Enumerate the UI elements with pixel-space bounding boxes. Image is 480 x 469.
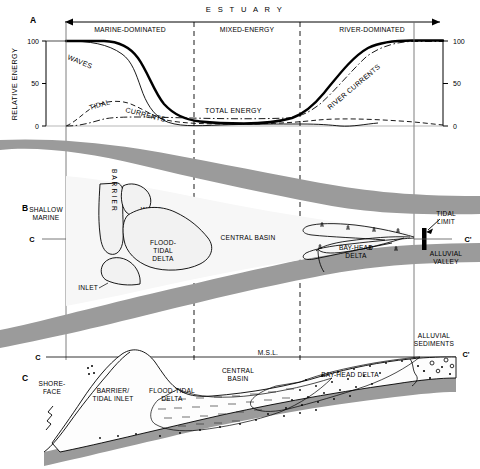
panel-a-right-axis: 100 50 0 <box>443 38 465 130</box>
estuary-extent-arrow <box>65 19 440 26</box>
shoreface-ravinement-zigzag <box>46 406 53 430</box>
curve-label-waves: WAVES <box>67 53 94 69</box>
feature-label-central-basin-c-2: BASIN <box>228 375 249 382</box>
feature-label-shallow-marine-2: MARINE <box>33 214 60 221</box>
feature-label-alluvial-sed-1: ALLUVIAL <box>418 332 451 339</box>
curve-label-river-currents: RIVER CURRENTS <box>326 63 381 111</box>
feature-label-ftd-c-2: DELTA <box>161 395 183 402</box>
feature-label-inlet: INLET <box>78 284 98 291</box>
feature-label-shallow-marine-1: SHALLOW <box>29 206 63 213</box>
section-label-c-right: C' <box>462 350 469 359</box>
feature-label-ftd-3: DELTA <box>152 255 174 262</box>
estuary-facies-model-figure: A E S T U A R Y MARINE-DOMINATED MIXED-E… <box>0 0 480 469</box>
zone-label-marine-dominated: MARINE-DOMINATED <box>94 26 165 33</box>
panel-a-ytick-right-0: 0 <box>453 123 457 130</box>
panel-c: C C C' M.S.L. <box>22 332 470 466</box>
feature-label-bhd-2: DELTA <box>345 252 367 259</box>
curve-label-tidal: TIDAL <box>88 98 110 111</box>
panel-a: A E S T U A R Y MARINE-DOMINATED MIXED-E… <box>10 5 465 130</box>
feature-label-tidal-limit-1: TIDAL <box>436 210 456 217</box>
feature-label-alluvial-valley-2: VALLEY <box>433 258 459 265</box>
feature-label-shoreface-1: SHORE- <box>39 380 66 387</box>
feature-label-ftd-c-1: FLOOD-TIDAL <box>149 387 195 394</box>
feature-label-barrier-inlet-1: BARRIER/ <box>97 387 130 394</box>
section-label-c-left: C <box>35 353 41 362</box>
feature-label-alluvial-valley-1: ALLUVIAL <box>430 250 463 257</box>
feature-label-central-basin-c-1: CENTRAL <box>222 367 254 374</box>
feature-label-bhd-1: BAY-HEAD <box>339 244 373 251</box>
feature-label-bhd-c: BAY-HEAD DELTA <box>321 371 379 378</box>
section-label-b-right: C' <box>464 235 471 244</box>
panel-a-ytick-100: 100 <box>27 38 39 45</box>
panel-a-ytick-right-100: 100 <box>453 38 465 45</box>
curve-label-total-energy: TOTAL ENERGY <box>205 107 262 114</box>
feature-label-central-basin: CENTRAL BASIN <box>221 234 276 241</box>
panel-a-label: A <box>30 15 36 25</box>
panel-a-ytick-0: 0 <box>35 123 39 130</box>
panel-b: B B A R R I E R WASH- OVERS FLOOD- TIDAL… <box>0 139 480 348</box>
section-label-b-left: C <box>29 235 35 244</box>
panel-b-label: B <box>22 203 28 213</box>
zone-label-river-dominated: RIVER-DOMINATED <box>339 26 405 33</box>
panel-c-label: C <box>22 373 28 383</box>
feature-label-barrier: B A R R I E R <box>111 169 118 211</box>
panel-a-axis-title: RELATIVE ENERGY <box>10 48 19 121</box>
panel-a-ytick-right-50: 50 <box>453 80 461 87</box>
panel-a-left-axis: 100 50 0 RELATIVE ENERGY <box>10 38 46 130</box>
tidal-limit-arrow <box>426 219 440 234</box>
zone-label-mixed-energy: MIXED-ENERGY <box>220 26 275 33</box>
msl-label: M.S.L. <box>258 349 278 356</box>
panel-a-ytick-50: 50 <box>31 80 39 87</box>
feature-label-ftd-1: FLOOD- <box>150 239 176 246</box>
feature-label-barrier-inlet-2: TIDAL INLET <box>92 395 133 402</box>
feature-label-ftd-2: TIDAL <box>153 247 173 254</box>
estuary-header: E S T U A R Y <box>206 5 284 14</box>
curve-label-currents: CURRENTS <box>125 106 167 123</box>
feature-label-alluvial-sed-2: SEDIMENTS <box>414 340 455 347</box>
feature-label-shoreface-2: FACE <box>43 388 61 395</box>
